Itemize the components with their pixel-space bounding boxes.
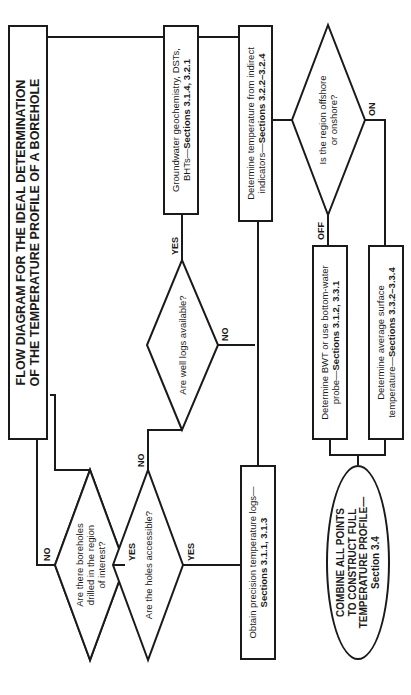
- edge-label-accessible-no: NO: [136, 454, 146, 468]
- process-indirect-sections: Sections 3.2.2–3.2.4: [256, 54, 267, 144]
- process-groundwater-sections: Sections 3.1.4, 3.2.1: [181, 59, 192, 149]
- edge-label-offshore-on: ON: [367, 103, 377, 117]
- decision-boreholes: Are there boreholes drilled in the regio…: [60, 510, 120, 620]
- decision-boreholes-line-2: drilled in the region: [85, 525, 96, 605]
- process-precision-logs-sections: Sections 3.1.1, 3.1.3: [258, 518, 269, 608]
- process-surface-text: Determine average surface: [375, 285, 386, 400]
- decision-well-logs-text: Are well logs available?: [177, 295, 188, 394]
- decision-boreholes-line-3: of interest?: [96, 542, 107, 589]
- decision-offshore-line-2: or onshore?: [328, 95, 339, 146]
- flow-diagram: FLOW DIAGRAM FOR THE IDEAL DETERMINATION…: [0, 0, 411, 695]
- terminal-combine: COMBINE ALL POINTS TO CONSTRUCT FULL TEM…: [326, 465, 390, 660]
- edge-label-boreholes-no: NO: [42, 548, 52, 562]
- process-surface-text-2: temperature—: [386, 357, 397, 418]
- title-box: FLOW DIAGRAM FOR THE IDEAL DETERMINATION…: [8, 25, 48, 440]
- edge-label-offshore-off: OFF: [316, 222, 326, 240]
- process-indirect-text-2: indicators—: [256, 143, 267, 193]
- process-indirect-indicators: Determine temperature from indirect indi…: [238, 25, 273, 222]
- process-bwt-text: Determine BWT or use bottom-water: [319, 265, 330, 420]
- process-precision-logs-text: Obtain precision temperature logs—: [247, 486, 258, 638]
- decision-accessible: Are the holes accessible?: [138, 495, 158, 635]
- decision-well-logs: Are well logs available?: [172, 280, 192, 410]
- decision-accessible-text: Are the holes accessible?: [143, 511, 154, 619]
- process-bwt: Determine BWT or use bottom-water probe—…: [312, 245, 348, 440]
- decision-offshore: Is the region offshore or onshore?: [313, 60, 343, 180]
- decision-boreholes-line-1: Are there boreholes: [74, 523, 85, 606]
- edge-label-boreholes-yes: YES: [127, 543, 137, 561]
- process-bwt-text-2: probe—: [330, 370, 341, 404]
- title-line-1: FLOW DIAGRAM FOR THE IDEAL DETERMINATION: [14, 80, 28, 386]
- terminal-line-2: TO CONSTRUCT FULL: [347, 509, 359, 617]
- edge-label-accessible-yes: YES: [186, 543, 196, 561]
- process-surface-temperature: Determine average surface temperature—Se…: [368, 245, 404, 440]
- terminal-line-3: TEMPERATURE PROFILE—: [358, 497, 370, 628]
- process-groundwater: Groundwater geochemistry, DSTs, BHTs—Sec…: [163, 25, 199, 215]
- edge-label-well-logs-no: NO: [220, 328, 230, 342]
- process-bwt-sections: Sections 3.1.2, 3.3.1: [330, 281, 341, 371]
- decision-offshore-line-1: Is the region offshore: [317, 75, 328, 164]
- process-precision-logs: Obtain precision temperature logs— Secti…: [240, 465, 276, 660]
- edge-label-well-logs-yes: YES: [170, 237, 180, 255]
- process-groundwater-text: Groundwater geochemistry, DSTs,: [170, 48, 181, 192]
- process-surface-sections: Sections 3.3.2–3.3.4: [386, 267, 397, 357]
- process-indirect-text: Determine temperature from indirect: [245, 47, 256, 200]
- process-groundwater-text-2: BHTs—: [181, 149, 192, 181]
- terminal-line-4: Section 3.4: [370, 536, 382, 589]
- title-line-2: OF THE TEMPERATURE PROFILE OF A BOREHOLE: [28, 79, 42, 387]
- terminal-line-1: COMBINE ALL POINTS: [335, 508, 347, 617]
